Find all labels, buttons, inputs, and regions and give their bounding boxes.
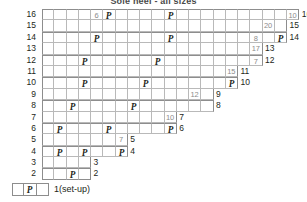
chart-cell bbox=[103, 146, 115, 157]
chart-cell: 8 bbox=[250, 32, 262, 43]
chart-row-cells: PP8P bbox=[42, 32, 287, 43]
chart-cell-symbol: P bbox=[79, 55, 91, 66]
chart-cell bbox=[226, 9, 238, 20]
chart-cell bbox=[177, 20, 189, 31]
chart-cell bbox=[79, 32, 91, 43]
chart-cell bbox=[67, 77, 79, 88]
chart-cell bbox=[79, 157, 91, 168]
purl-symbol: P bbox=[128, 101, 138, 111]
chart-cell bbox=[116, 9, 128, 20]
chart-cell bbox=[103, 100, 115, 111]
chart-cell bbox=[128, 32, 140, 43]
chart-cell-symbol: P bbox=[67, 100, 79, 111]
row-number-left: 9 bbox=[20, 89, 36, 100]
chart-cell bbox=[250, 9, 262, 20]
chart-cell bbox=[103, 134, 115, 145]
purl-symbol: P bbox=[104, 124, 114, 134]
chart-cell bbox=[177, 55, 189, 66]
chart-cell bbox=[214, 55, 226, 66]
chart-cell bbox=[238, 20, 250, 31]
chart-cell bbox=[91, 100, 103, 111]
chart-cell bbox=[67, 157, 79, 168]
chart-cell bbox=[177, 32, 189, 43]
purl-symbol: P bbox=[79, 56, 89, 66]
chart-row-cells: PPP bbox=[42, 123, 177, 134]
chart-cell bbox=[201, 100, 213, 111]
chart-cell bbox=[140, 32, 152, 43]
row-number-left: 16 bbox=[20, 9, 36, 20]
chart-cell bbox=[54, 157, 66, 168]
chart-cell bbox=[54, 77, 66, 88]
row-number-right: 11 bbox=[238, 66, 249, 77]
row-number-left: 7 bbox=[20, 112, 36, 123]
chart-cell bbox=[140, 100, 152, 111]
chart-cell bbox=[128, 112, 140, 123]
chart-cell bbox=[238, 55, 250, 66]
row-number-left: 2 bbox=[20, 168, 36, 179]
chart-cell bbox=[214, 43, 226, 54]
chart-cell-symbol: P bbox=[226, 77, 238, 88]
chart-cell bbox=[177, 9, 189, 20]
chart-cell bbox=[54, 20, 66, 31]
chart-cell bbox=[275, 20, 287, 31]
chart-cell bbox=[263, 9, 275, 20]
chart-cell bbox=[67, 146, 79, 157]
chart-cell bbox=[67, 9, 79, 20]
chart-cell bbox=[238, 9, 250, 20]
chart-cell bbox=[165, 89, 177, 100]
chart-cell bbox=[42, 55, 54, 66]
chart-cell bbox=[165, 66, 177, 77]
chart-cell-symbol: P bbox=[165, 123, 177, 134]
purl-symbol: P bbox=[25, 184, 35, 195]
purl-symbol: P bbox=[55, 124, 65, 134]
row-number-left: 4 bbox=[20, 146, 36, 157]
chart-cell bbox=[177, 77, 189, 88]
chart-cell bbox=[116, 32, 128, 43]
chart-cell: 6 bbox=[91, 9, 103, 20]
row-number-left: 11 bbox=[20, 66, 36, 77]
purl-symbol: P bbox=[91, 33, 101, 43]
chart-cell bbox=[42, 9, 54, 20]
chart-row-cells: 15 bbox=[42, 66, 238, 77]
row-number-right: 7 bbox=[177, 112, 184, 123]
chart-cell bbox=[79, 134, 91, 145]
purl-symbol: P bbox=[165, 124, 175, 134]
chart-cell bbox=[189, 32, 201, 43]
purl-symbol: P bbox=[140, 78, 150, 88]
chart-cell bbox=[189, 43, 201, 54]
purl-symbol: P bbox=[79, 78, 89, 88]
chart-cell bbox=[128, 55, 140, 66]
chart-cell bbox=[201, 32, 213, 43]
chart-cell bbox=[42, 112, 54, 123]
legend-cell bbox=[12, 183, 24, 196]
chart-cell bbox=[42, 43, 54, 54]
chart-cell bbox=[189, 20, 201, 31]
chart-cell bbox=[91, 77, 103, 88]
chart-cell bbox=[42, 134, 54, 145]
chart-cell bbox=[116, 89, 128, 100]
chart-cell bbox=[201, 77, 213, 88]
chart-cell bbox=[79, 9, 91, 20]
chart-cell bbox=[42, 123, 54, 134]
chart-cell: 10 bbox=[287, 9, 299, 20]
chart-cell: 12 bbox=[189, 89, 201, 100]
chart-cell bbox=[54, 32, 66, 43]
chart-row-cells: 6PP10 bbox=[42, 9, 299, 20]
chart-cell bbox=[103, 32, 115, 43]
chart-cell bbox=[226, 55, 238, 66]
chart-cell: 17 bbox=[250, 43, 262, 54]
chart-cell bbox=[54, 100, 66, 111]
chart-cell bbox=[128, 89, 140, 100]
chart-cell bbox=[140, 55, 152, 66]
chart-cell-symbol: P bbox=[103, 123, 115, 134]
chart-cell bbox=[165, 100, 177, 111]
chart-cell bbox=[189, 77, 201, 88]
chart-cell-symbol: P bbox=[116, 146, 128, 157]
row-number-left: 5 bbox=[20, 134, 36, 145]
row-number-right: 2 bbox=[91, 168, 98, 179]
row-number-left: 10 bbox=[20, 77, 36, 88]
chart-cell bbox=[189, 100, 201, 111]
chart-cell bbox=[103, 89, 115, 100]
chart-cell bbox=[42, 168, 54, 179]
chart-cell bbox=[91, 55, 103, 66]
